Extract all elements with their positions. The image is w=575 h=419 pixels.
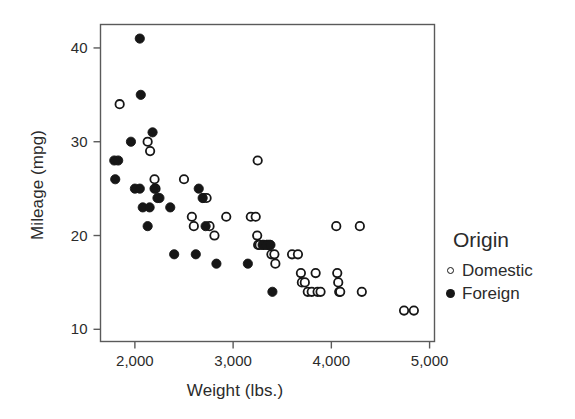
plot-frame xyxy=(101,25,435,342)
scatter-plot-figure: Mileage (mpg) Weight (lbs.) 2,0003,0004,… xyxy=(0,0,575,419)
data-point xyxy=(150,184,159,193)
data-point xyxy=(155,193,164,202)
legend-entries: DomesticForeign xyxy=(441,259,533,305)
data-point xyxy=(252,213,260,221)
legend-item-domestic[interactable]: Domestic xyxy=(441,259,533,282)
data-point xyxy=(111,175,120,184)
data-point xyxy=(115,100,123,108)
data-point xyxy=(311,269,319,277)
data-point xyxy=(297,269,305,277)
open-circle-icon xyxy=(441,267,459,274)
data-point xyxy=(356,222,364,230)
legend-item-label: Domestic xyxy=(462,261,533,281)
data-point xyxy=(222,213,230,221)
y-axis-title: Mileage (mpg) xyxy=(28,55,48,315)
data-point xyxy=(400,306,408,314)
y-tick-label: 40 xyxy=(42,39,88,56)
y-tick-label: 30 xyxy=(42,133,88,150)
data-point xyxy=(194,184,203,193)
data-point xyxy=(410,306,418,314)
data-point xyxy=(253,156,261,164)
data-point xyxy=(150,175,158,183)
data-point xyxy=(333,269,341,277)
data-point xyxy=(143,222,152,231)
data-point xyxy=(301,278,309,286)
data-point xyxy=(191,250,200,259)
data-point xyxy=(166,203,175,212)
data-point xyxy=(136,90,145,99)
series-domestic xyxy=(115,100,418,315)
data-point xyxy=(270,250,278,258)
data-point xyxy=(316,288,324,296)
data-point xyxy=(190,222,198,230)
filled-circle-icon xyxy=(441,289,459,298)
data-point xyxy=(114,156,123,165)
data-point xyxy=(266,240,275,249)
data-point xyxy=(201,222,210,231)
data-point xyxy=(148,128,157,137)
x-tick-label: 2,000 xyxy=(100,352,170,369)
data-point xyxy=(253,231,261,239)
data-point xyxy=(143,138,151,146)
legend-item-foreign[interactable]: Foreign xyxy=(441,282,533,305)
data-point xyxy=(135,34,144,43)
data-point xyxy=(126,137,135,146)
x-tick-label: 5,000 xyxy=(395,352,465,369)
x-axis-title: Weight (lbs.) xyxy=(0,381,470,401)
x-tick-label: 4,000 xyxy=(296,352,366,369)
data-point xyxy=(212,259,221,268)
legend: Origin DomesticForeign xyxy=(441,228,533,305)
data-point xyxy=(294,250,302,258)
data-point xyxy=(243,259,252,268)
data-point xyxy=(145,203,154,212)
y-tick-label: 20 xyxy=(42,227,88,244)
legend-title: Origin xyxy=(453,228,533,252)
data-point xyxy=(188,213,196,221)
data-point xyxy=(332,222,340,230)
data-point xyxy=(358,288,366,296)
data-point xyxy=(210,231,218,239)
y-tick-label: 10 xyxy=(42,320,88,337)
series-foreign xyxy=(110,34,277,296)
data-point xyxy=(146,147,154,155)
data-point xyxy=(180,175,188,183)
data-point xyxy=(135,184,144,193)
data-point xyxy=(334,278,342,286)
plot-canvas xyxy=(0,0,575,419)
x-tick-label: 3,000 xyxy=(198,352,268,369)
legend-item-label: Foreign xyxy=(462,284,520,304)
data-point xyxy=(336,288,344,296)
data-point xyxy=(268,287,277,296)
data-point xyxy=(198,193,207,202)
data-point xyxy=(170,250,179,259)
data-point xyxy=(271,259,279,267)
